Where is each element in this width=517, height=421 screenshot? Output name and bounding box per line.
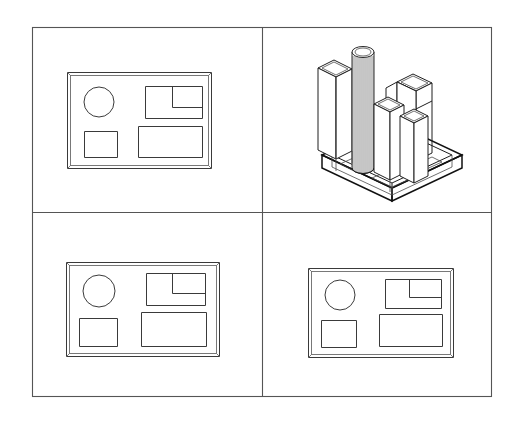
side-view-circular-hole <box>325 280 355 310</box>
top-view-large-pocket <box>142 313 207 347</box>
isometric-assembly <box>318 47 462 202</box>
top-view-plate-outline <box>67 263 220 357</box>
side-view-small-pocket <box>322 321 357 348</box>
side-view-stepped-pocket <box>386 280 442 309</box>
quadrant-bottom-right[interactable] <box>309 269 454 358</box>
iso-tall-square-prism <box>318 60 352 159</box>
quadrant-top-left[interactable] <box>68 73 212 169</box>
front-view-circular-hole <box>84 87 114 117</box>
top-view-stepped-pocket <box>147 274 206 306</box>
quadrant-top-right[interactable] <box>318 47 462 202</box>
top-view-small-pocket <box>80 319 118 347</box>
front-view-large-pocket <box>139 127 203 158</box>
multiview-drawing <box>0 0 517 421</box>
quadrant-bottom-left[interactable] <box>67 263 220 357</box>
top-view-circular-hole <box>83 275 115 307</box>
side-view-plate-outline <box>309 269 454 358</box>
side-view-large-pocket <box>380 315 443 347</box>
front-view-stepped-pocket <box>146 87 203 119</box>
front-view-small-pocket <box>85 132 118 158</box>
iso-tall-cylinder <box>352 47 374 176</box>
drawing-canvas: Orthographic Multiview Engineering Drawi… <box>0 0 517 421</box>
iso-short-prism <box>400 109 428 183</box>
